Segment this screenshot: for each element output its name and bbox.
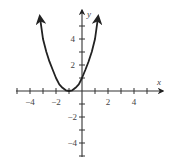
x-tick-label: 2 [106, 97, 111, 107]
x-tick-label: 4 [132, 97, 137, 107]
x-tick-label: −4 [25, 97, 35, 107]
y-tick-label: 4 [71, 34, 76, 44]
x-axis-label: x [156, 77, 161, 87]
parabola-curve [40, 16, 98, 91]
x-axis: −4 −2 2 4 x [16, 77, 163, 107]
y-tick-label: −2 [67, 112, 77, 122]
y-axis-label: y [86, 9, 91, 19]
y-tick-label: −4 [67, 138, 77, 148]
parabola-graph: −4 −2 2 4 x 4 2 −2 −4 y [0, 0, 173, 164]
x-tick-label: −2 [51, 97, 61, 107]
y-tick-label: 2 [71, 60, 76, 70]
parabola-curve [40, 9, 98, 91]
